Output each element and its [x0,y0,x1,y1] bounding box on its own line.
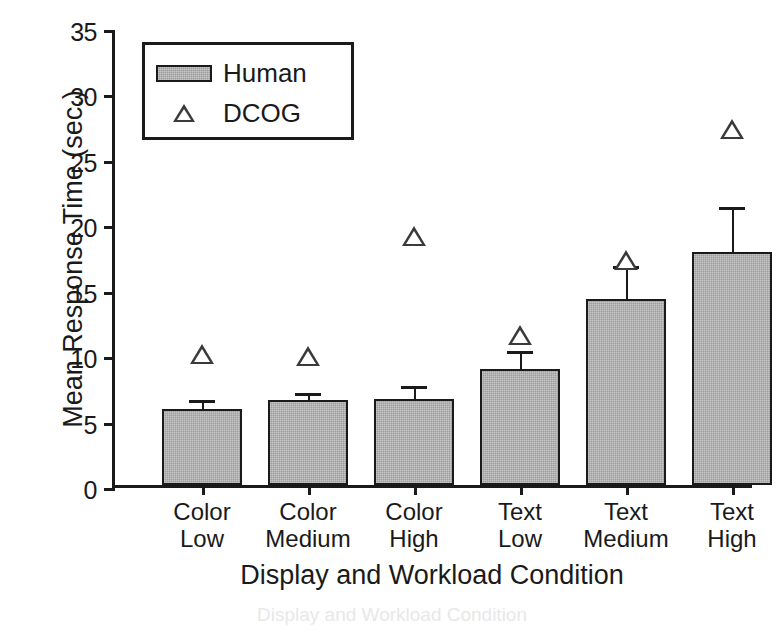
y-tick-35: 35 [104,30,115,33]
error-cap-text-low [507,351,533,354]
x-tick-color-medium [308,485,311,495]
bar-human-color-low [162,409,242,485]
error-bar-text-low [520,354,522,368]
legend-item-dcog: DCOG [145,93,351,133]
bar-human-text-high [692,252,772,485]
x-tick-label-line1: Text [667,498,784,525]
error-cap-text-high [719,207,745,210]
x-tick-label-line2: High [667,525,784,552]
y-tick-20: 20 [104,226,115,229]
y-axis-title: Mean Response Time (sec.) [55,30,91,488]
legend-key-dcog [145,104,223,122]
legend-label-dcog: DCOG [223,98,301,129]
bar-human-text-medium [586,299,666,485]
dcog-marker-color-low [190,344,214,364]
error-bar-color-high [414,389,416,398]
x-tick-text-medium [626,485,629,495]
error-cap-color-high [401,386,427,389]
x-axis-title: Display and Workload Condition [112,560,752,591]
error-bar-color-medium [308,396,310,400]
dcog-marker-color-medium [296,346,320,366]
error-bar-color-low [202,403,204,410]
legend-key-human [145,65,223,82]
y-tick-25: 25 [104,161,115,164]
legend-item-human: Human [145,53,351,93]
x-tick-color-low [202,485,205,495]
y-tick-0: 0 [104,488,115,491]
error-cap-color-medium [295,393,321,396]
dcog-marker-color-high [402,226,426,246]
x-tick-text-low [520,485,523,495]
y-tick-30: 30 [104,95,115,98]
bar-human-color-high [374,399,454,485]
dcog-marker-text-high [720,119,744,139]
x-tick-label-text-high: Text High [667,498,784,552]
error-bar-text-high [732,210,734,252]
bar-swatch-icon [156,65,212,82]
legend-label-human: Human [223,58,307,89]
bar-human-text-low [480,369,560,486]
y-tick-5: 5 [104,423,115,426]
figure-caption: Display and Workload Condition [0,604,784,626]
x-tick-text-high [732,485,735,495]
x-tick-color-high [414,485,417,495]
error-cap-color-low [189,400,215,403]
triangle-marker-icon [173,104,195,122]
y-tick-15: 15 [104,292,115,295]
figure: 0 5 10 15 20 25 30 35 Mean Response Time… [0,0,784,626]
error-bar-text-medium [626,269,628,299]
dcog-marker-text-low [508,325,532,345]
legend: Human DCOG [142,42,354,140]
bar-human-color-medium [268,400,348,485]
y-tick-10: 10 [104,357,115,360]
dcog-marker-text-medium [614,250,638,270]
